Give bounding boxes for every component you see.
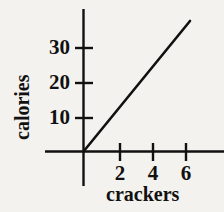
y-tick-label-10: 10 bbox=[34, 107, 70, 128]
y-tick-label-30: 30 bbox=[34, 37, 70, 58]
x-tick-label-6: 6 bbox=[176, 163, 196, 184]
x-tick-label-4: 4 bbox=[143, 163, 163, 184]
y-axis-title: calories bbox=[12, 74, 32, 140]
y-tick-label-20: 20 bbox=[34, 72, 70, 93]
x-axis-title: crackers bbox=[106, 184, 179, 204]
x-tick-label-2: 2 bbox=[110, 163, 130, 184]
chart-container: 30 20 10 2 4 6 calories crackers bbox=[0, 0, 224, 212]
